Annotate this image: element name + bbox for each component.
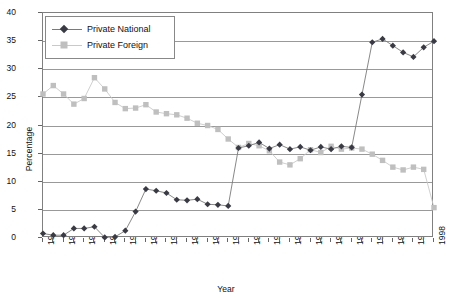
x-tick-mark: [135, 238, 136, 242]
x-tick-mark: [320, 238, 321, 242]
x-tick-mark: [196, 238, 197, 242]
x-tick-mark: [382, 238, 383, 242]
legend-line-national: [52, 29, 82, 30]
data-point-marker: [205, 123, 210, 128]
x-tick-mark: [145, 238, 146, 242]
data-point-marker: [318, 150, 323, 155]
data-point-marker: [195, 121, 200, 126]
data-point-marker: [50, 232, 56, 238]
x-tick-mark: [248, 238, 249, 242]
data-point-marker: [112, 100, 117, 105]
data-point-marker: [71, 225, 77, 231]
data-point-marker: [92, 75, 97, 80]
x-tick-mark: [217, 238, 218, 242]
y-tick-label: 25: [0, 91, 16, 101]
x-tick-mark: [392, 238, 393, 242]
data-point-marker: [431, 205, 436, 210]
legend-label-private-foreign: Private Foreign: [87, 40, 148, 50]
data-point-marker: [380, 158, 385, 163]
y-tick-label: 15: [0, 148, 16, 158]
x-tick-mark: [289, 238, 290, 242]
data-point-marker: [287, 146, 293, 152]
y-tick-label: 30: [0, 63, 16, 73]
data-point-marker: [277, 159, 282, 164]
data-point-marker: [40, 230, 46, 236]
data-point-marker: [184, 197, 190, 203]
data-point-marker: [153, 188, 159, 194]
data-point-marker: [133, 208, 139, 214]
y-tick-label: 40: [0, 7, 16, 17]
x-tick-mark: [73, 238, 74, 242]
data-point-marker: [400, 167, 405, 172]
data-point-marker: [61, 91, 66, 96]
data-point-marker: [370, 151, 375, 156]
data-point-marker: [153, 109, 158, 114]
x-tick-mark: [279, 238, 280, 242]
data-point-marker: [123, 106, 128, 111]
data-point-marker: [390, 43, 396, 49]
series-line-private-national: [43, 39, 434, 238]
x-tick-mark: [176, 238, 177, 242]
data-point-marker: [359, 91, 365, 97]
x-tick-mark: [207, 238, 208, 242]
data-point-marker: [81, 96, 86, 101]
data-point-marker: [400, 49, 406, 55]
legend-label-private-national: Private National: [87, 24, 151, 34]
data-point-marker: [71, 101, 76, 106]
x-tick-mark: [351, 238, 352, 242]
x-tick-mark: [433, 238, 434, 242]
data-point-marker: [225, 203, 231, 209]
x-tick-mark: [155, 238, 156, 242]
x-tick-label: 1998: [437, 226, 447, 245]
data-point-marker: [143, 186, 149, 192]
data-point-marker: [411, 164, 416, 169]
y-tick-label: 20: [0, 120, 16, 130]
data-point-marker: [102, 86, 107, 91]
data-point-marker: [81, 225, 87, 231]
x-tick-mark: [361, 238, 362, 242]
data-point-marker: [390, 164, 395, 169]
data-point-marker: [184, 115, 189, 120]
x-tick-mark: [371, 238, 372, 242]
chart-legend: Private National Private Foreign: [45, 16, 175, 59]
data-point-marker: [421, 167, 426, 172]
data-point-marker: [122, 228, 128, 234]
x-tick-mark: [63, 238, 64, 242]
data-point-marker: [226, 136, 231, 141]
data-point-marker: [60, 232, 66, 238]
x-tick-mark: [165, 238, 166, 242]
data-point-marker: [369, 39, 375, 45]
data-point-marker: [431, 38, 437, 44]
x-tick-mark: [52, 238, 53, 242]
data-point-marker: [163, 190, 169, 196]
data-point-marker: [215, 127, 220, 132]
x-tick-mark: [412, 238, 413, 242]
data-point-marker: [298, 156, 303, 161]
series-line-private-foreign: [43, 78, 434, 208]
x-tick-mark: [83, 238, 84, 242]
x-tick-mark: [42, 238, 43, 242]
data-point-marker: [174, 112, 179, 117]
y-tick-label: 10: [0, 176, 16, 186]
data-point-marker: [359, 146, 364, 151]
legend-line-foreign: [52, 45, 82, 46]
data-point-marker: [51, 83, 56, 88]
data-point-marker: [194, 196, 200, 202]
chart-container: Percentage 0510152025303540 196019621964…: [0, 0, 452, 298]
x-tick-mark: [340, 238, 341, 242]
x-tick-mark: [268, 238, 269, 242]
x-tick-mark: [93, 238, 94, 242]
data-point-marker: [164, 111, 169, 116]
y-tick-label: 35: [0, 35, 16, 45]
x-tick-mark: [238, 238, 239, 242]
data-point-marker: [318, 144, 324, 150]
data-point-marker: [287, 162, 292, 167]
x-tick-mark: [423, 238, 424, 242]
legend-item-private-national: Private National: [52, 21, 168, 37]
data-point-marker: [133, 105, 138, 110]
data-point-marker: [297, 144, 303, 150]
x-axis-title: Year: [0, 284, 452, 294]
x-tick-mark: [227, 238, 228, 242]
x-tick-mark: [186, 238, 187, 242]
x-tick-mark: [258, 238, 259, 242]
